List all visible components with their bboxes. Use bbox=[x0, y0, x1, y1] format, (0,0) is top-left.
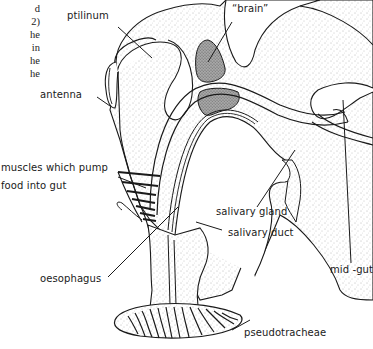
label-muscles-line1: muscles which pump bbox=[1, 162, 108, 173]
label-mid-gut: mid -gut bbox=[330, 264, 373, 275]
label-muscles-line2: food into gut bbox=[1, 180, 67, 191]
antenna bbox=[105, 62, 118, 108]
label-salivary-duct: salivary duct bbox=[228, 227, 294, 238]
label-ptilinum: ptilinum bbox=[67, 10, 109, 21]
maxillary-palp bbox=[117, 202, 142, 220]
label-pseudotracheae: pseudotracheae bbox=[244, 327, 326, 338]
label-oesophagus: oesophagus bbox=[40, 273, 101, 284]
label-antenna: antenna bbox=[40, 89, 82, 100]
diagram-canvas: d 2) he in he he bbox=[0, 0, 373, 349]
fly-head-anatomy-drawing bbox=[0, 0, 373, 349]
labellum bbox=[114, 303, 241, 338]
label-salivary-gland: salivary gland bbox=[216, 206, 288, 217]
label-brain: “brain” bbox=[232, 3, 268, 14]
